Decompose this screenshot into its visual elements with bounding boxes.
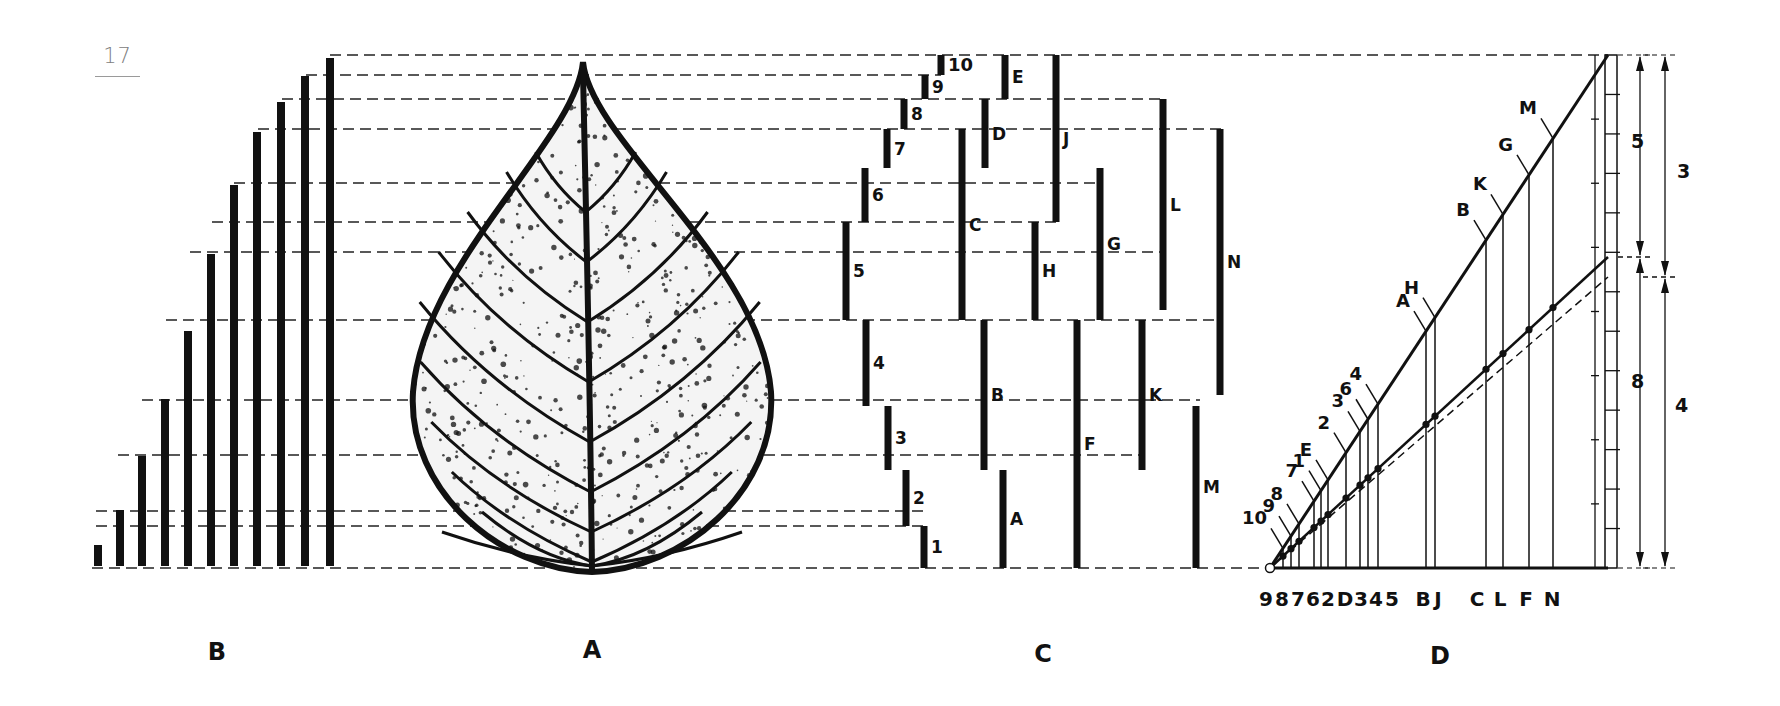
segment-label: H: [1042, 261, 1056, 281]
segment-bar-f: [1074, 320, 1081, 568]
upper-label: G: [1498, 134, 1513, 155]
panel-label-b: B: [208, 638, 226, 666]
bottom-label: L: [1494, 587, 1507, 611]
segment-label: K: [1149, 385, 1163, 405]
segment-bar-n: [1217, 129, 1224, 395]
bottom-label: 5: [1385, 587, 1399, 611]
proportion-bar: [116, 510, 124, 566]
segment-bar-k: [1139, 320, 1146, 470]
segment-bar-1: [921, 526, 928, 568]
upper-label: E: [1300, 439, 1312, 460]
upper-label: 4: [1349, 363, 1362, 384]
leader-line: [1491, 194, 1503, 214]
leader-line: [1271, 528, 1283, 548]
segment-bar-l: [1160, 99, 1167, 310]
leader-line: [1356, 399, 1368, 419]
segment-bar-5: [843, 222, 850, 320]
leader-line: [1423, 298, 1435, 318]
intersection-dot: [1364, 474, 1371, 481]
segment-label: 1: [931, 537, 943, 557]
panel-label-a: A: [583, 636, 602, 664]
intersection-dot: [1482, 366, 1489, 373]
segment-bar-e: [1002, 55, 1009, 99]
leader-line: [1309, 471, 1321, 491]
intersection-dot: [1342, 494, 1349, 501]
bottom-label: 4: [1369, 587, 1383, 611]
panel-b-bars: [94, 58, 334, 566]
segment-bar-g: [1097, 168, 1104, 320]
dimension-label: 4: [1675, 394, 1688, 416]
segment-label: C: [969, 215, 981, 235]
upper-label: H: [1404, 277, 1419, 298]
intersection-dot: [1310, 524, 1317, 531]
bottom-label: J: [1432, 587, 1441, 611]
arrow-up-icon: [1661, 278, 1669, 293]
leader-line: [1517, 155, 1529, 175]
proportion-bar: [326, 58, 334, 566]
intersection-dot: [1525, 326, 1532, 333]
leader-line: [1541, 118, 1553, 138]
bottom-label: B: [1415, 587, 1430, 611]
intersection-dot: [1287, 545, 1294, 552]
proportion-bar: [138, 456, 146, 566]
intersection-dot: [1295, 538, 1302, 545]
upper-label: 2: [1317, 412, 1330, 433]
segment-bar-6: [862, 168, 869, 222]
arrow-down-icon: [1661, 261, 1669, 276]
segment-label: N: [1227, 252, 1241, 272]
ruler: [1605, 55, 1617, 568]
bottom-label: F: [1519, 587, 1533, 611]
proportion-bar: [184, 331, 192, 566]
dimension-label: 5: [1631, 130, 1644, 152]
arrow-down-icon: [1636, 241, 1644, 256]
proportion-bar: [207, 254, 215, 566]
intersection-dot: [1431, 413, 1438, 420]
leader-line: [1474, 220, 1486, 240]
intersection-dot: [1317, 517, 1324, 524]
intersection-dot: [1499, 350, 1506, 357]
intersection-dot: [1374, 465, 1381, 472]
segment-label: M: [1203, 477, 1220, 497]
segment-label: 6: [872, 185, 884, 205]
intersection-dot: [1324, 511, 1331, 518]
segment-label: 4: [873, 353, 885, 373]
intersection-dot: [1422, 421, 1429, 428]
segment-label: F: [1084, 434, 1096, 454]
leaf-proportion-figure: 12345678910ABCDEFGHJKLMN 109871E2364AHBK…: [0, 0, 1780, 706]
arrow-up-icon: [1636, 56, 1644, 71]
dashed-guide-lines: [92, 55, 1608, 568]
proportion-bar: [253, 132, 261, 566]
upper-label: B: [1456, 199, 1470, 220]
arrow-up-icon: [1661, 56, 1669, 71]
segment-bar-9: [922, 75, 929, 99]
upper-label: 8: [1270, 483, 1283, 504]
proportion-bar: [301, 76, 309, 566]
segment-label: A: [1010, 509, 1024, 529]
arrow-up-icon: [1636, 258, 1644, 273]
segment-bar-d: [982, 99, 989, 168]
panel-a-leaf: [411, 60, 773, 573]
segment-label: L: [1170, 195, 1181, 215]
segment-bar-m: [1193, 406, 1200, 568]
segment-bar-8: [901, 99, 908, 129]
leader-line: [1414, 311, 1426, 331]
bottom-label: 7: [1291, 587, 1305, 611]
dimension-label: 8: [1631, 370, 1644, 392]
segment-bar-4: [863, 320, 870, 406]
arrow-down-icon: [1636, 552, 1644, 567]
segment-label: 7: [894, 139, 906, 159]
segment-label: 5: [853, 261, 865, 281]
panel-d-construction: 109871E2364AHBKGM98762D345BJCLFN5834: [1242, 55, 1690, 611]
segment-bar-a: [1000, 470, 1007, 568]
bottom-label: 6: [1306, 587, 1320, 611]
segment-label: J: [1062, 129, 1069, 149]
bottom-label: C: [1470, 587, 1485, 611]
leader-line: [1302, 481, 1314, 501]
leader-line: [1366, 384, 1378, 404]
segment-label: G: [1107, 234, 1121, 254]
leader-line: [1316, 460, 1328, 480]
panel-label-d: D: [1430, 642, 1450, 670]
bottom-label: 8: [1275, 587, 1289, 611]
segment-bar-10: [938, 55, 945, 75]
upper-label: M: [1519, 97, 1537, 118]
